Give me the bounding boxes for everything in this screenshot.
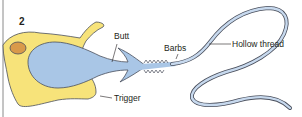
- leader-trigger: [100, 96, 112, 98]
- nucleus: [10, 42, 26, 54]
- label-butt: Butt: [114, 32, 129, 41]
- label-hollow-thread: Hollow thread: [232, 40, 284, 49]
- barbs-bottom: [144, 70, 164, 73]
- leader-barbs: [176, 54, 178, 59]
- label-barbs: Barbs: [164, 44, 186, 53]
- label-trigger: Trigger: [114, 94, 141, 103]
- nematocyst-diagram: 2 Butt Barbs Hollow thread Trigger: [0, 0, 302, 117]
- diagram-artwork: [0, 0, 302, 117]
- leader-butt: [112, 44, 117, 62]
- capsule-and-butt: [28, 42, 146, 88]
- barbs-top: [144, 60, 168, 63]
- hollow-thread: [172, 8, 290, 108]
- panel-number: 2: [19, 16, 25, 27]
